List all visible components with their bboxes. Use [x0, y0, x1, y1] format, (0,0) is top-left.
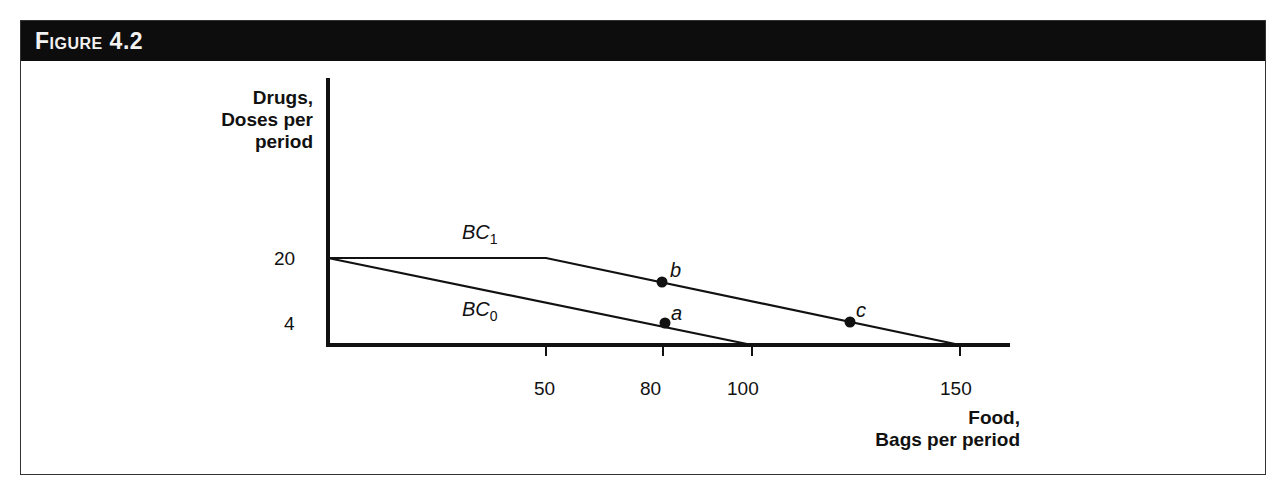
y-axis-label: Drugs, Doses per period	[221, 87, 313, 153]
budget-line-bc0	[328, 258, 752, 345]
y-tick-label-4: 4	[284, 313, 295, 335]
y-label-line: Drugs,	[221, 87, 313, 109]
curve-label-subscript: 0	[490, 308, 498, 324]
y-tick-label-20: 20	[274, 248, 295, 270]
x-axis-label: Food, Bags per period	[875, 407, 1020, 451]
curve-label-bc1: BC1	[462, 221, 498, 247]
x-tick-label-50: 50	[534, 378, 555, 400]
curve-label-subscript: 1	[490, 231, 498, 247]
point-b	[657, 277, 668, 288]
y-label-line: period	[221, 131, 313, 153]
curve-label-base: BC	[462, 221, 490, 243]
point-label-a: a	[671, 302, 682, 325]
x-label-line: Food,	[875, 407, 1020, 429]
chart-plot-area	[0, 0, 1275, 492]
point-a	[660, 318, 671, 329]
curve-label-bc0: BC0	[462, 298, 498, 324]
y-label-line: Doses per	[221, 109, 313, 131]
x-tick-label-80: 80	[640, 378, 661, 400]
x-tick-label-100: 100	[727, 378, 759, 400]
x-tick-label-150: 150	[940, 378, 972, 400]
point-label-b: b	[670, 259, 681, 282]
curve-label-base: BC	[462, 298, 490, 320]
x-label-line: Bags per period	[875, 429, 1020, 451]
point-c	[845, 317, 856, 328]
point-label-c: c	[856, 299, 866, 322]
